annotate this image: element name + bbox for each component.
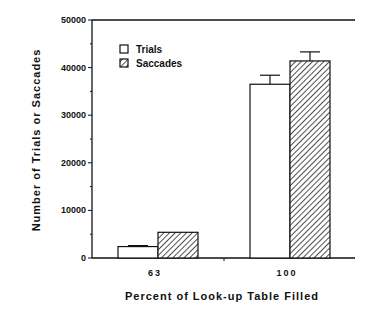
- legend-swatch-saccades: [120, 59, 128, 67]
- y-axis-label: Number of Trials or Saccades: [30, 49, 42, 232]
- bar-trials: [250, 84, 290, 258]
- y-tick-label: 50000: [61, 15, 86, 25]
- x-axis-label: Percent of Look-up Table Filled: [125, 290, 319, 302]
- x-tick-label: 100: [276, 268, 297, 278]
- y-tick-label: 40000: [61, 63, 86, 73]
- legend-label-saccades: Saccades: [136, 58, 183, 69]
- legend: TrialsSaccades: [120, 44, 183, 69]
- x-tick-label: 63: [148, 268, 162, 278]
- bar-saccades: [290, 61, 330, 258]
- bar-trials: [118, 247, 158, 258]
- bar-saccades: [158, 232, 198, 258]
- y-tick-label: 20000: [61, 158, 86, 168]
- legend-label-trials: Trials: [136, 44, 163, 55]
- y-tick-label: 10000: [61, 205, 86, 215]
- legend-swatch-trials: [120, 45, 128, 53]
- y-tick-label: 0: [81, 253, 86, 263]
- chart-figure: 01000020000300004000050000 63100 TrialsS…: [0, 0, 374, 312]
- bar-chart: 01000020000300004000050000 63100 TrialsS…: [0, 0, 374, 312]
- y-tick-label: 30000: [61, 110, 86, 120]
- bars: 63100: [118, 52, 330, 278]
